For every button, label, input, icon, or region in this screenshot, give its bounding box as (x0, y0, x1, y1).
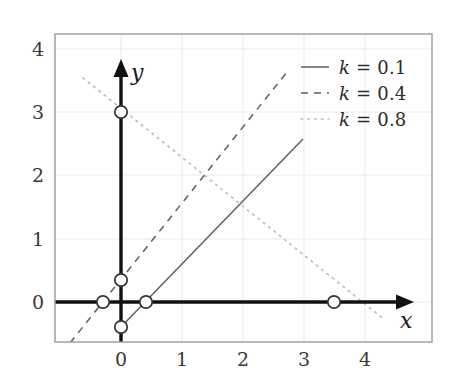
ytick-label-0: 0 (32, 293, 44, 312)
marker-k01-x-intercept (140, 296, 152, 308)
marker-k01-y-intercept (115, 321, 127, 333)
ytick-label-3: 3 (32, 103, 44, 122)
xtick-label-4: 4 (359, 350, 371, 369)
legend-label-k08: k = 0.8 (339, 109, 406, 130)
ytick-label-4: 4 (32, 40, 44, 59)
legend-entry-k01: k = 0.1 (300, 54, 430, 80)
marker-k08-y-intercept (115, 106, 127, 118)
y-axis-label: y (131, 62, 143, 84)
ytick-label-2: 2 (32, 166, 44, 185)
xtick-label-3: 3 (298, 350, 310, 369)
marker-k04-y-intercept (115, 274, 127, 286)
x-axis-label: x (400, 310, 412, 332)
legend-entry-k08: k = 0.8 (300, 106, 430, 132)
chart-figure: 0 1 2 3 4 0 1 2 3 4 y x k = 0.1 k = 0.4 (0, 0, 462, 383)
chart-legend: k = 0.1 k = 0.4 k = 0.8 (300, 54, 430, 132)
legend-label-k04: k = 0.4 (339, 83, 406, 104)
legend-entry-k04: k = 0.4 (300, 80, 430, 106)
ytick-label-1: 1 (32, 230, 44, 249)
marker-k08-x-intercept (328, 296, 340, 308)
marker-k04-x-intercept (97, 296, 109, 308)
xtick-label-1: 1 (176, 350, 188, 369)
xtick-label-2: 2 (237, 350, 249, 369)
legend-swatch-dotted-icon (300, 112, 330, 126)
legend-label-k01: k = 0.1 (339, 57, 406, 78)
xtick-label-0: 0 (115, 350, 127, 369)
legend-swatch-solid-icon (300, 60, 330, 74)
legend-swatch-dashed-icon (300, 86, 330, 100)
